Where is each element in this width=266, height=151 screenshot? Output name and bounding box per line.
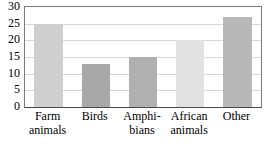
bar [129,57,157,107]
bar [82,64,110,107]
x-tick-label: Other [213,110,260,124]
y-axis: 051015202530 [0,0,22,112]
bar [176,40,204,107]
bars-layer [25,7,261,107]
x-tick-label: Birds [71,110,118,124]
bar [34,24,62,107]
bar-chart: 051015202530 Farm animalsBirdsAmphi- bia… [0,0,266,151]
plot-area [24,6,262,108]
y-tick-label: 10 [8,67,20,79]
x-tick-label: African animals [166,110,213,137]
y-tick-label: 5 [14,83,20,95]
y-tick-label: 15 [8,50,20,62]
x-tick-label: Amphi- bians [118,110,165,137]
x-tick-label: Farm animals [24,110,71,137]
bar [223,17,251,107]
x-axis: Farm animalsBirdsAmphi- biansAfrican ani… [24,110,262,151]
y-tick-label: 20 [8,33,20,45]
y-tick-label: 30 [8,0,20,12]
y-tick-label: 0 [14,100,20,112]
y-tick-label: 25 [8,17,20,29]
